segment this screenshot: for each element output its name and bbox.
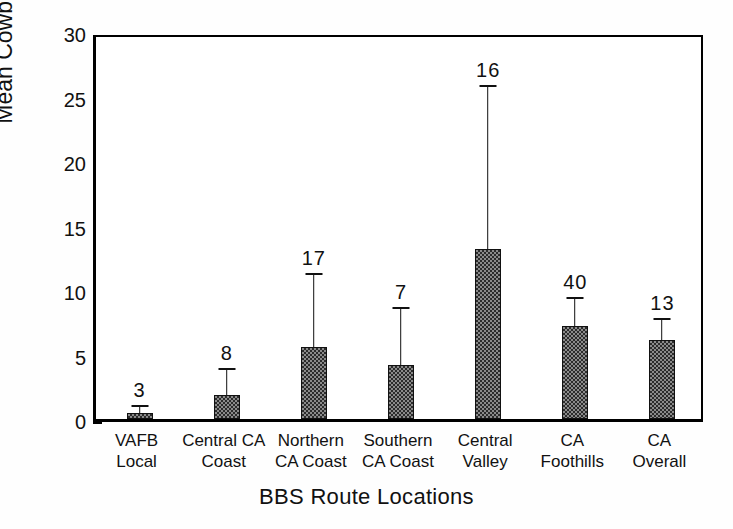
x-tick-label-line: Northern — [267, 430, 354, 451]
y-tick-label: 15 — [46, 219, 86, 239]
x-tick-label-line: Central CA — [180, 430, 267, 451]
error-bar-line — [313, 275, 314, 347]
bar-sample-size-label: 13 — [650, 293, 674, 313]
bar-group: 17 — [301, 32, 327, 419]
bar-sample-size-label: 3 — [134, 380, 146, 400]
error-bar-cap — [305, 273, 322, 275]
bar-group: 40 — [562, 32, 588, 419]
y-tick-label: 25 — [46, 90, 86, 110]
bar — [301, 347, 327, 419]
bar-group: 13 — [649, 32, 675, 419]
x-tick-label: CentralValley — [442, 430, 529, 472]
bar — [388, 365, 414, 419]
error-bar-cap — [218, 368, 235, 370]
y-tick-mark — [93, 422, 102, 424]
bar-sample-size-label: 17 — [302, 248, 326, 268]
error-bar-line — [139, 407, 140, 412]
error-bar-line — [487, 87, 488, 248]
y-tick-label: 10 — [46, 283, 86, 303]
bar-sample-size-label: 16 — [476, 60, 500, 80]
x-tick-label-line: Local — [93, 451, 180, 472]
error-bar-cap — [654, 318, 671, 320]
x-tick-label: NorthernCA Coast — [267, 430, 354, 472]
chart-figure: Mean Cowbirds/Route 051015202530 3817716… — [0, 0, 733, 529]
x-tick-label: CAFoothills — [529, 430, 616, 472]
bar — [214, 395, 240, 420]
error-bar-cap — [131, 405, 148, 407]
x-tick-label-line: Southern — [354, 430, 441, 451]
bar — [562, 326, 588, 419]
x-tick-label: Central CACoast — [180, 430, 267, 472]
error-bar-line — [400, 309, 401, 364]
x-tick-label-line: Central — [442, 430, 529, 451]
y-tick-label: 5 — [46, 348, 86, 368]
y-axis-label: Mean Cowbirds/Route — [0, 0, 18, 150]
bar-group: 7 — [388, 32, 414, 419]
x-tick-label-line: CA Coast — [354, 451, 441, 472]
error-bar-line — [662, 320, 663, 341]
x-axis-label: BBS Route Locations — [0, 484, 733, 510]
bar — [127, 413, 153, 419]
plot-area: 38177164013 — [93, 35, 703, 422]
error-bar-cap — [393, 307, 410, 309]
error-bar-cap — [567, 297, 584, 299]
bar-group: 3 — [127, 32, 153, 419]
x-tick-label-line: CA — [529, 430, 616, 451]
x-tick-label-line: Overall — [616, 451, 703, 472]
error-bar-cap — [480, 85, 497, 87]
bar-sample-size-label: 40 — [563, 272, 587, 292]
x-tick-label-line: CA — [616, 430, 703, 451]
y-tick-label: 30 — [46, 25, 86, 45]
x-tick-label-line: Coast — [180, 451, 267, 472]
y-tick-label: 0 — [46, 412, 86, 432]
bar-sample-size-label: 8 — [221, 343, 233, 363]
x-tick-label-line: Foothills — [529, 451, 616, 472]
bar-sample-size-label: 7 — [395, 282, 407, 302]
x-tick-label-line: VAFB — [93, 430, 180, 451]
bar-group: 16 — [475, 32, 501, 419]
x-tick-label: VAFBLocal — [93, 430, 180, 472]
x-tick-label-line: Valley — [442, 451, 529, 472]
x-tick-label-line: CA Coast — [267, 451, 354, 472]
y-tick-label: 20 — [46, 154, 86, 174]
x-tick-label: SouthernCA Coast — [354, 430, 441, 472]
error-bar-line — [574, 299, 575, 326]
bar — [649, 340, 675, 419]
error-bar-line — [226, 370, 227, 395]
x-tick-label: CAOverall — [616, 430, 703, 472]
bar — [475, 249, 501, 419]
bar-group: 8 — [214, 32, 240, 419]
